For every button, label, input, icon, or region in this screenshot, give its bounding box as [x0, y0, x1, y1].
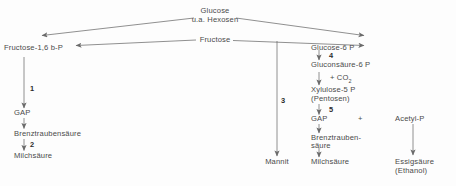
- node-gap-right: GAP: [311, 114, 328, 123]
- node-mannit: Mannit: [265, 157, 289, 166]
- node-milchsaeure-right: Milchsäure: [311, 157, 349, 166]
- node-gluconsaeure-6-p: Gluconsäure-6 P: [311, 60, 370, 69]
- pathway-diagram: Glucose u.a. Hexosen Fructose Fructose-1…: [0, 0, 456, 186]
- node-glucose-line2: u.a. Hexosen: [192, 15, 239, 24]
- node-glucose-line1: Glucose: [201, 6, 230, 15]
- co2-text: + CO: [330, 73, 349, 82]
- step-number-5: 5: [329, 105, 333, 114]
- node-brenztraubensaeure-left: Brenztraubensäure: [14, 129, 81, 138]
- node-essigsaeure: Essigsäure: [395, 157, 434, 166]
- node-fructose-1-6-bp: Fructose-1,6 b-P: [4, 43, 63, 52]
- node-milchsaeure-left: Milchsäure: [14, 151, 52, 160]
- node-xylulose-5-p: Xylulose-5 P: [311, 85, 355, 94]
- node-pentosen: (Pentosen): [311, 94, 350, 103]
- arrow-glucose-to-glucose6p: [236, 18, 364, 36]
- step-number-1: 1: [30, 84, 34, 93]
- step-number-3: 3: [281, 96, 285, 105]
- co2-subscript: 2: [349, 78, 352, 84]
- node-acetyl-p: Acetyl-P: [395, 114, 424, 123]
- plus-sign-gap-acetylp: +: [358, 114, 362, 123]
- pathway-arrows-layer: [0, 0, 456, 186]
- node-brenztraubensaeure-right-line2: säure: [311, 141, 331, 150]
- arrow-fructose-to-fructose-bp: [76, 40, 196, 46]
- step-number-4: 4: [329, 51, 333, 60]
- node-gap-left: GAP: [14, 108, 31, 117]
- step-number-2: 2: [30, 140, 34, 149]
- node-co2-label: + CO2: [330, 73, 352, 86]
- node-fructose: Fructose: [200, 35, 231, 44]
- node-ethanol: (Ethanol): [395, 166, 427, 175]
- arrow-glucose-to-fructose-bp: [42, 18, 194, 36]
